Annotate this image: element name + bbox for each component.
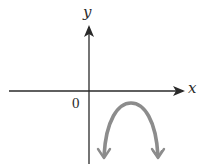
y-axis-label: y (83, 5, 91, 20)
coordinate-plane-diagram: y x 0 (0, 0, 200, 164)
x-axis-label: x (188, 81, 196, 96)
parabola-curve (104, 103, 158, 156)
diagram-canvas (0, 0, 200, 164)
origin-label: 0 (72, 96, 80, 111)
